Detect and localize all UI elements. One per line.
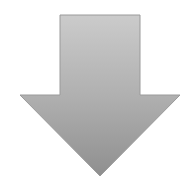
- arrow-shape: [20, 15, 180, 176]
- arrow-canvas: [0, 0, 194, 185]
- arrow-down-icon: [0, 0, 194, 185]
